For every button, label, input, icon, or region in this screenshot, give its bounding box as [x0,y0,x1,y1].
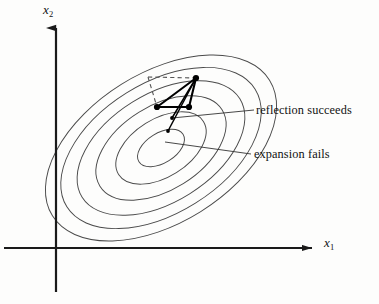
contour-ellipse-3 [78,74,245,222]
contour-ellipse-2 [103,97,219,199]
simplex-vertex-3 [186,104,192,110]
simplex-vertex-1 [193,75,199,81]
x-axis-label-base: x [324,235,330,250]
contour-ellipse-5 [32,34,289,262]
annotation-expansion-fails: expansion fails [254,147,330,162]
leader-line-1 [172,110,254,118]
contour-ellipse-1 [131,122,191,175]
annotation-reflection-succeeds: reflection succeeds [256,103,352,118]
simplex-triangle [157,78,196,107]
y-axis-label-base: x [43,2,49,17]
dashed-construction-line-2 [148,77,157,107]
simplex-interior-segment-2 [168,78,196,131]
simplex-interior-segments [168,78,196,131]
x-axis-label: x1 [324,235,334,251]
simplex-small-point-2 [166,129,170,133]
simplex-small-point-1 [170,116,174,120]
nelder-mead-simplex-figure: x2 x1 reflection succeeds expansion fail… [0,0,379,304]
simplex-vertex-2 [154,104,160,110]
contour-ellipse-4 [54,53,269,243]
y-axis-label-subscript: 2 [49,9,53,19]
leader-line-group [165,110,254,154]
x-axis-label-subscript: 1 [330,242,334,252]
y-axis-label: x2 [43,2,53,18]
